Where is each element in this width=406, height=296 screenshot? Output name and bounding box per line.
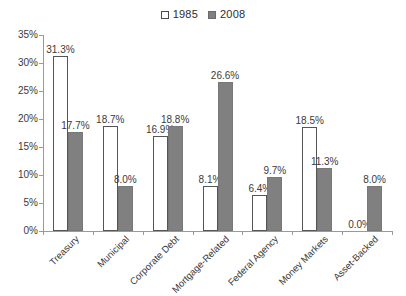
- y-tick-label: 10%: [18, 170, 38, 180]
- x-category-label-corporate-debt: Corporate Debt: [128, 234, 181, 287]
- bar-value-label: 9.7%: [263, 166, 286, 176]
- bar-value-label: 17.7%: [61, 121, 89, 131]
- bar-2008-mortgage-related[interactable]: 26.6%: [218, 82, 233, 231]
- bar-chart: 1985 2008 0%5%10%15%20%25%30%35% 31.3%17…: [0, 0, 406, 296]
- filled-square-marker-icon: [208, 11, 216, 19]
- bar-2008-treasury[interactable]: 17.7%: [68, 132, 83, 231]
- bar-1985-treasury[interactable]: 31.3%: [53, 56, 68, 231]
- bar-value-label: 18.7%: [96, 115, 124, 125]
- bar-value-label: 31.3%: [46, 45, 74, 55]
- bar-2008-federal-agency[interactable]: 9.7%: [267, 177, 282, 231]
- x-axis-line: [43, 231, 392, 232]
- x-category-label-money-markets: Money Markets: [277, 234, 330, 287]
- bar-1985-corporate-debt[interactable]: 16.9%: [153, 136, 168, 231]
- legend-entry-2008: 2008: [208, 9, 245, 20]
- x-category-label-municipal: Municipal: [95, 234, 130, 269]
- bar-value-label: 26.6%: [211, 71, 239, 81]
- x-category-label-asset-backed: Asset-Backed: [332, 234, 381, 283]
- x-tick-mark: [392, 231, 393, 235]
- legend-label-2008: 2008: [220, 9, 245, 20]
- bar-2008-corporate-debt[interactable]: 18.8%: [168, 126, 183, 231]
- bar-2008-money-markets[interactable]: 11.3%: [317, 168, 332, 231]
- bar-group: 16.9%18.8%: [153, 35, 183, 231]
- y-tick-mark: [39, 35, 43, 36]
- y-tick-label: 35%: [18, 30, 38, 40]
- y-axis-line: [43, 35, 44, 231]
- y-tick-label: 30%: [18, 58, 38, 68]
- x-category-label-treasury: Treasury: [48, 234, 81, 267]
- y-tick-label: 15%: [18, 142, 38, 152]
- bar-group: 18.7%8.0%: [103, 35, 133, 231]
- bar-2008-asset-backed[interactable]: 8.0%: [367, 186, 382, 231]
- y-tick-label: 20%: [18, 114, 38, 124]
- x-tick-mark: [43, 231, 44, 235]
- bar-value-label: 8.0%: [114, 175, 137, 185]
- y-tick-mark: [39, 147, 43, 148]
- bar-1985-federal-agency[interactable]: 6.4%: [252, 195, 267, 231]
- bar-value-label: 18.5%: [296, 116, 324, 126]
- legend-label-1985: 1985: [173, 9, 198, 20]
- bar-group: 6.4%9.7%: [252, 35, 282, 231]
- x-tick-mark: [292, 231, 293, 235]
- x-tick-mark: [242, 231, 243, 235]
- y-tick-label: 0%: [24, 226, 38, 236]
- y-tick-label: 25%: [18, 86, 38, 96]
- bar-1985-mortgage-related[interactable]: 8.1%: [203, 186, 218, 231]
- bar-1985-money-markets[interactable]: 18.5%: [302, 127, 317, 231]
- x-tick-mark: [93, 231, 94, 235]
- y-tick-mark: [39, 119, 43, 120]
- x-tick-mark: [143, 231, 144, 235]
- y-tick-mark: [39, 175, 43, 176]
- bar-2008-municipal[interactable]: 8.0%: [118, 186, 133, 231]
- x-category-label-federal-agency: Federal Agency: [227, 234, 281, 288]
- bar-value-label: 11.3%: [311, 157, 339, 167]
- bar-group: 8.1%26.6%: [203, 35, 233, 231]
- bar-group: 0.0%8.0%: [352, 35, 382, 231]
- y-tick-mark: [39, 203, 43, 204]
- x-tick-mark: [193, 231, 194, 235]
- y-tick-mark: [39, 91, 43, 92]
- x-tick-mark: [342, 231, 343, 235]
- chart-legend: 1985 2008: [0, 9, 406, 20]
- y-tick-mark: [39, 63, 43, 64]
- bar-value-label: 18.8%: [161, 115, 189, 125]
- hollow-square-marker-icon: [161, 11, 169, 19]
- bar-group: 31.3%17.7%: [53, 35, 83, 231]
- bar-value-label: 8.0%: [363, 175, 386, 185]
- plot-area: 0%5%10%15%20%25%30%35% 31.3%17.7%18.7%8.…: [43, 35, 392, 231]
- y-tick-label: 5%: [24, 198, 38, 208]
- legend-entry-1985: 1985: [161, 9, 198, 20]
- bar-group: 18.5%11.3%: [302, 35, 332, 231]
